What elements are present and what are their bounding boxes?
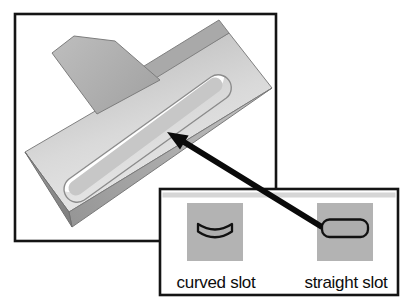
straight-slot-label: straight slot: [304, 273, 388, 292]
figure-canvas: curved slot straight slot: [0, 0, 405, 304]
curved-slot-label: curved slot: [177, 273, 256, 292]
diagram-svg: curved slot straight slot: [0, 0, 405, 304]
feature-palette: curved slot straight slot: [160, 189, 398, 295]
palette-top-band: [163, 193, 396, 198]
straight-slot-icon: [322, 220, 368, 238]
